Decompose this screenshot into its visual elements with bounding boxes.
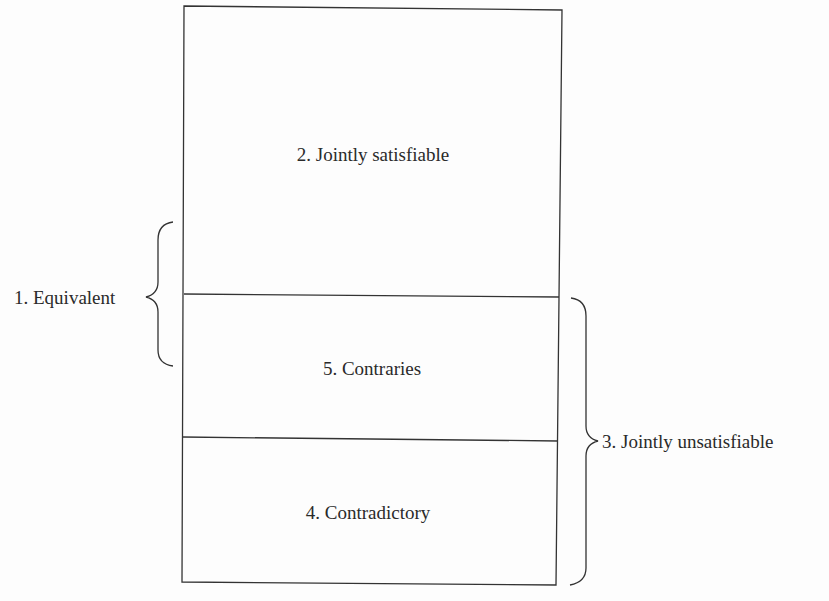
region-label-contradictory: 4. Contradictory xyxy=(306,503,431,522)
region-label-jointly-satisfiable: 2. Jointly satisfiable xyxy=(297,145,450,164)
right-brace-icon xyxy=(570,298,598,585)
left-brace-icon xyxy=(146,222,173,366)
region-label-contraries: 5. Contraries xyxy=(323,359,421,378)
bracket-label-jointly-unsatisfiable: 3. Jointly unsatisfiable xyxy=(602,432,774,451)
bracket-label-equivalent: 1. Equivalent xyxy=(14,288,115,307)
divider-bottom xyxy=(183,437,558,441)
divider-top xyxy=(184,294,559,297)
